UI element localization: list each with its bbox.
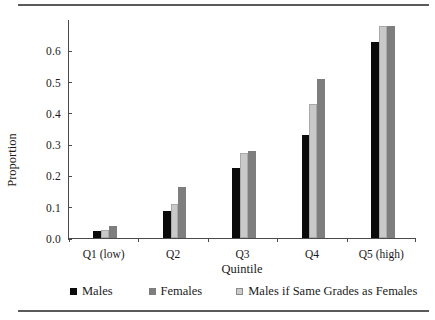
x-tick-mark: [69, 238, 70, 242]
y-tick-label: 0.5: [46, 77, 68, 89]
figure: Proportion 0.00.10.20.30.40.50.6 Q1 (low…: [0, 0, 435, 320]
x-tick-mark: [347, 238, 348, 242]
x-tick-mark: [277, 238, 278, 242]
legend-item[interactable]: Males: [70, 284, 113, 299]
y-tick-label: 0.2: [46, 170, 68, 182]
x-tick-label: Q4: [277, 248, 346, 260]
bar[interactable]: [178, 187, 186, 238]
bar[interactable]: [371, 42, 379, 238]
bottom-rule: [18, 310, 429, 312]
x-axis-label: Quintile: [68, 262, 416, 277]
bar-group: Q1 (low): [69, 20, 138, 238]
x-tick-mark: [138, 238, 139, 242]
bar-group: Q4: [277, 20, 346, 238]
bar[interactable]: [317, 79, 325, 238]
x-tick-label: Q2: [138, 248, 207, 260]
bar[interactable]: [379, 26, 387, 238]
bar[interactable]: [248, 151, 256, 238]
y-tick-label: 0.4: [46, 108, 68, 120]
bar[interactable]: [302, 135, 310, 238]
bar[interactable]: [101, 230, 109, 238]
y-axis-label: Proportion: [5, 133, 20, 186]
y-tick-label: 0.6: [46, 45, 68, 57]
y-tick-label: 0.1: [46, 202, 68, 214]
x-tick-label: Q5 (high): [347, 248, 416, 260]
chart-legend: MalesFemalesMales if Same Grades as Fema…: [60, 284, 425, 299]
legend-label: Males: [82, 284, 113, 299]
legend-label: Males if Same Grades as Females: [248, 284, 417, 299]
bar[interactable]: [387, 26, 395, 238]
bar-group: Q3: [208, 20, 277, 238]
legend-label: Females: [161, 284, 203, 299]
bar[interactable]: [232, 168, 240, 238]
x-tick-mark: [208, 238, 209, 242]
legend-item[interactable]: Females: [149, 284, 203, 299]
x-tick-label: Q3: [208, 248, 277, 260]
bar[interactable]: [171, 204, 179, 238]
x-axis-line: [68, 238, 416, 239]
legend-swatch-icon: [236, 288, 243, 295]
bar[interactable]: [93, 231, 101, 238]
y-tick-label: 0.3: [46, 139, 68, 151]
bar[interactable]: [163, 211, 171, 238]
legend-swatch-icon: [70, 288, 77, 295]
x-tick-mark: [415, 238, 416, 242]
x-tick-label: Q1 (low): [69, 248, 138, 260]
legend-item[interactable]: Males if Same Grades as Females: [236, 284, 417, 299]
bar-group: Q5 (high): [347, 20, 416, 238]
top-rule: [18, 4, 429, 6]
legend-swatch-icon: [149, 288, 156, 295]
y-tick-label: 0.0: [46, 233, 68, 245]
bar[interactable]: [309, 104, 317, 238]
bar[interactable]: [109, 226, 117, 238]
bar-group: Q2: [138, 20, 207, 238]
plot-area: 0.00.10.20.30.40.50.6 Q1 (low)Q2Q3Q4Q5 (…: [68, 20, 416, 239]
bar[interactable]: [240, 153, 248, 238]
bar-groups: Q1 (low)Q2Q3Q4Q5 (high): [69, 20, 416, 238]
